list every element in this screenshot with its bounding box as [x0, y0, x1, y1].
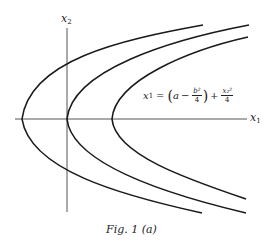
- x1-label-sub: 1: [256, 117, 260, 125]
- x2-label-sub: 2: [67, 18, 71, 26]
- x1-axis-label: x1: [250, 111, 261, 125]
- figure-caption: Fig. 1 (a): [106, 223, 157, 236]
- eq-a: a: [173, 90, 179, 101]
- eq-fraction-b2-over-4: b² 4: [192, 87, 201, 104]
- parabola-equation: x1 = ( a − b² 4 ) + x₂² 4: [143, 87, 234, 104]
- eq-frac2-den: 4: [225, 96, 229, 104]
- eq-frac1-num: b²: [192, 87, 201, 96]
- eq-fraction-x2sq-over-4: x₂² 4: [221, 87, 233, 104]
- eq-frac2-num: x₂²: [221, 87, 233, 96]
- eq-close-paren: ): [203, 89, 208, 103]
- x2-axis-label: x2: [61, 12, 72, 26]
- parabola-right: [112, 37, 248, 199]
- eq-minus: −: [181, 90, 189, 101]
- eq-frac1-den: 4: [195, 96, 199, 104]
- eq-equals: =: [156, 90, 164, 101]
- eq-plus: +: [210, 90, 218, 101]
- parabola-diagram: [0, 0, 273, 244]
- eq-lhs-sub: 1: [149, 92, 153, 100]
